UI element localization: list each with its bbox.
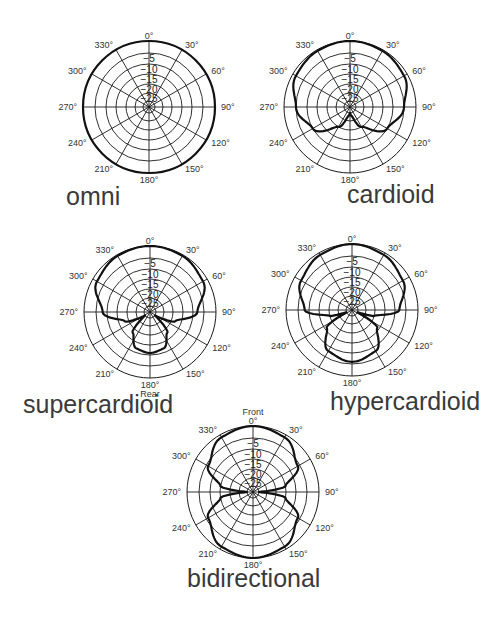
angle-label: 60° xyxy=(211,66,225,76)
angle-label: 90° xyxy=(325,487,339,497)
angle-label: 240° xyxy=(271,341,290,351)
db-label: −25 xyxy=(245,478,262,489)
angle-label: 120° xyxy=(412,138,431,148)
angle-label: 210° xyxy=(198,549,217,559)
angle-label: 300° xyxy=(271,269,290,279)
angle-label: 240° xyxy=(269,138,288,148)
angle-label: 30° xyxy=(289,425,303,435)
angle-label: 150° xyxy=(186,369,205,379)
angle-label: 240° xyxy=(69,343,88,353)
angle-label: 90° xyxy=(424,305,438,315)
angle-label: 330° xyxy=(297,243,316,253)
angle-label: 30° xyxy=(186,245,200,255)
angle-label: 30° xyxy=(386,40,400,50)
angle-label: 330° xyxy=(94,40,113,50)
angle-label: 0° xyxy=(348,234,357,244)
angle-label: 300° xyxy=(172,451,191,461)
db-label: −5 xyxy=(144,258,156,269)
cardioid-polar-plot: 0°30°60°90°120°150°180°210°240°270°300°3… xyxy=(259,31,436,185)
angle-label: 150° xyxy=(185,164,204,174)
hypercardioid-label: hypercardioid xyxy=(330,389,480,414)
angle-label: 90° xyxy=(221,102,235,112)
angle-label: 300° xyxy=(269,66,288,76)
angle-label: 300° xyxy=(69,271,88,281)
angle-label: 270° xyxy=(59,307,78,317)
angle-label: 90° xyxy=(222,307,236,317)
angle-label: 120° xyxy=(414,341,433,351)
angle-label: 150° xyxy=(388,367,407,377)
db-label: −5 xyxy=(143,53,155,64)
angle-label: 270° xyxy=(259,102,278,112)
angle-label: 120° xyxy=(315,523,334,533)
angle-label: 120° xyxy=(211,138,230,148)
angle-label: 330° xyxy=(95,245,114,255)
db-label: −5 xyxy=(344,53,356,64)
hypercardioid-polar-plot: 0°30°60°90°120°150°180°210°240°270°300°3… xyxy=(261,234,438,388)
angle-label: 270° xyxy=(261,305,280,315)
db-label: −25 xyxy=(142,298,159,309)
angle-label: 210° xyxy=(295,164,314,174)
angle-label: 180° xyxy=(140,175,159,185)
angle-label: 60° xyxy=(412,66,426,76)
angle-label: 0° xyxy=(146,236,155,246)
omni-polar-plot: 0°30°60°90°120°150°180°210°240°270°300°3… xyxy=(58,31,235,185)
supercardioid-polar-plot: 0°30°60°90°120°150°180°210°240°270°300°3… xyxy=(59,236,236,399)
bidirectional-label: bidirectional xyxy=(187,566,320,591)
angle-label: 330° xyxy=(295,40,314,50)
angle-label: 210° xyxy=(95,369,114,379)
polar-patterns-figure: 0°30°60°90°120°150°180°210°240°270°300°3… xyxy=(0,0,504,617)
angle-label: 30° xyxy=(388,243,402,253)
db-label: −25 xyxy=(141,93,158,104)
angle-label: 210° xyxy=(94,164,113,174)
supercardioid-label: supercardioid xyxy=(23,392,173,417)
front-label: Front xyxy=(242,407,264,417)
angle-label: 240° xyxy=(172,523,191,533)
angle-label: 0° xyxy=(145,31,154,41)
angle-label: 60° xyxy=(414,269,428,279)
angle-label: 60° xyxy=(212,271,226,281)
angle-label: 30° xyxy=(185,40,199,50)
angle-label: 270° xyxy=(162,487,181,497)
angle-label: 150° xyxy=(386,164,405,174)
angle-label: 90° xyxy=(422,102,436,112)
angle-label: 60° xyxy=(315,451,329,461)
bidirectional-polar-plot: 0°30°60°90°120°150°180°210°240°270°300°3… xyxy=(162,407,339,570)
angle-label: 270° xyxy=(58,102,77,112)
angle-label: 330° xyxy=(198,425,217,435)
angle-label: 240° xyxy=(68,138,87,148)
omni-label: omni xyxy=(66,184,120,209)
db-label: −25 xyxy=(344,296,361,307)
angle-label: 300° xyxy=(68,66,87,76)
cardioid-label: cardioid xyxy=(347,182,435,207)
db-label: −5 xyxy=(346,256,358,267)
angle-label: 120° xyxy=(212,343,231,353)
angle-label: 210° xyxy=(297,367,316,377)
angle-label: 0° xyxy=(249,416,258,426)
angle-label: 150° xyxy=(289,549,308,559)
db-label: −25 xyxy=(342,93,359,104)
angle-label: 0° xyxy=(346,31,355,41)
db-label: −5 xyxy=(247,438,259,449)
